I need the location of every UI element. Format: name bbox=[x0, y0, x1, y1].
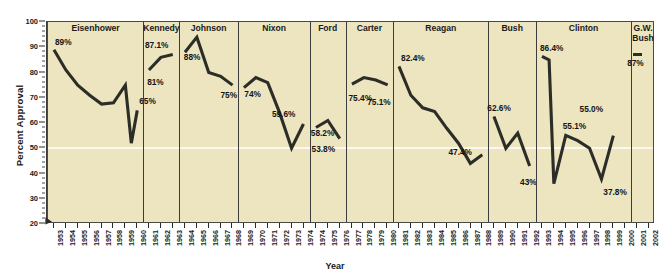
panel-g-w-bush: G.W.Bush87% bbox=[631, 22, 655, 222]
x-tick-label: 1974 bbox=[318, 230, 327, 246]
x-axis-title: Year bbox=[0, 261, 670, 271]
data-label: 43% bbox=[520, 178, 537, 187]
x-tick-label: 1979 bbox=[377, 230, 386, 246]
y-minor-tick bbox=[42, 101, 46, 102]
panel-clinton: Clinton86.4%55.1%55.0%37.8% bbox=[536, 22, 631, 222]
x-tick-mark bbox=[53, 223, 54, 228]
x-tick-label: 2000 bbox=[627, 230, 636, 246]
x-tick-mark bbox=[231, 223, 232, 228]
y-minor-tick bbox=[42, 66, 46, 67]
y-minor-tick bbox=[42, 177, 46, 178]
series-line bbox=[393, 22, 488, 224]
y-tick-mark bbox=[39, 172, 45, 173]
panel-title: G.W.Bush bbox=[631, 24, 655, 43]
y-minor-tick bbox=[42, 106, 46, 107]
x-tick-mark bbox=[517, 223, 518, 228]
x-tick-label: 1988 bbox=[484, 230, 493, 246]
x-tick-label: 2002 bbox=[651, 230, 660, 246]
series-line bbox=[488, 22, 536, 224]
panel-eisenhower: Eisenhower89%65% bbox=[48, 22, 143, 222]
presidential-approval-chart: Percent Approval 2030405060708090100 Eis… bbox=[0, 0, 670, 277]
y-minor-tick bbox=[42, 36, 46, 37]
x-tick-label: 1962 bbox=[163, 230, 172, 246]
panel-reagan: Reagan82.4%47.4% bbox=[393, 22, 488, 222]
y-minor-tick bbox=[42, 167, 46, 168]
x-tick-mark bbox=[327, 223, 328, 228]
x-tick-mark bbox=[434, 223, 435, 228]
y-minor-tick bbox=[42, 116, 46, 117]
x-tick-label: 1960 bbox=[139, 230, 148, 246]
x-tick-mark bbox=[553, 223, 554, 228]
y-axis-ticks: 2030405060708090100 bbox=[0, 0, 47, 277]
data-label: 62.6% bbox=[487, 104, 511, 113]
x-tick-mark bbox=[529, 223, 530, 228]
y-tick-label: 80 bbox=[16, 67, 38, 76]
x-tick-label: 1981 bbox=[401, 230, 410, 246]
x-tick-label: 1973 bbox=[294, 230, 303, 246]
y-minor-tick bbox=[42, 182, 46, 183]
y-tick-label: 30 bbox=[16, 193, 38, 202]
x-tick-mark bbox=[374, 223, 375, 228]
data-label: 58.2% bbox=[311, 129, 335, 138]
x-tick-mark bbox=[648, 223, 649, 228]
x-tick-mark bbox=[612, 223, 613, 228]
series-marker bbox=[633, 53, 642, 56]
y-minor-tick bbox=[42, 41, 46, 42]
x-tick-mark bbox=[481, 223, 482, 228]
x-tick-label: 1977 bbox=[354, 230, 363, 246]
x-tick-mark bbox=[386, 223, 387, 228]
plot-area: Eisenhower89%65%Kennedy87.1%81%Johnson88… bbox=[47, 21, 654, 223]
y-minor-tick bbox=[42, 91, 46, 92]
y-tick-mark bbox=[39, 122, 45, 123]
x-tick-mark bbox=[315, 223, 316, 228]
x-tick-mark bbox=[148, 223, 149, 228]
series-line bbox=[238, 22, 309, 224]
x-tick-label: 1966 bbox=[211, 230, 220, 246]
y-minor-tick bbox=[42, 142, 46, 143]
x-tick-mark bbox=[362, 223, 363, 228]
series-line bbox=[346, 22, 394, 224]
x-tick-mark bbox=[493, 223, 494, 228]
y-minor-tick bbox=[42, 31, 46, 32]
x-tick-label: 1957 bbox=[104, 230, 113, 246]
x-tick-label: 1964 bbox=[187, 230, 196, 246]
y-tick-label: 60 bbox=[16, 118, 38, 127]
data-label: 37.8% bbox=[603, 188, 627, 197]
x-tick-label: 1965 bbox=[199, 230, 208, 246]
panel-title-line: Bush bbox=[631, 34, 655, 44]
x-tick-label: 1999 bbox=[615, 230, 624, 246]
x-tick-mark bbox=[279, 223, 280, 228]
x-tick-label: 1987 bbox=[473, 230, 482, 246]
x-tick-mark bbox=[339, 223, 340, 228]
x-tick-label: 1997 bbox=[592, 230, 601, 246]
x-tick-label: 1993 bbox=[544, 230, 553, 246]
y-minor-tick bbox=[42, 192, 46, 193]
x-tick-label: 1976 bbox=[342, 230, 351, 246]
x-tick-mark bbox=[577, 223, 578, 228]
y-minor-tick bbox=[42, 127, 46, 128]
data-label: 87.1% bbox=[145, 41, 169, 50]
x-tick-label: 1968 bbox=[234, 230, 243, 246]
y-minor-tick bbox=[42, 26, 46, 27]
x-tick-mark bbox=[196, 223, 197, 228]
x-tick-label: 1967 bbox=[223, 230, 232, 246]
y-minor-tick bbox=[42, 51, 46, 52]
x-tick-mark bbox=[291, 223, 292, 228]
y-minor-tick bbox=[42, 61, 46, 62]
x-tick-mark bbox=[422, 223, 423, 228]
y-minor-tick bbox=[42, 137, 46, 138]
x-tick-mark bbox=[446, 223, 447, 228]
panel-kennedy: Kennedy87.1%81% bbox=[143, 22, 179, 222]
x-tick-label: 1972 bbox=[282, 230, 291, 246]
x-tick-mark bbox=[255, 223, 256, 228]
x-tick-label: 1971 bbox=[270, 230, 279, 246]
panel-bush: Bush62.6%43% bbox=[488, 22, 536, 222]
panel-nixon: Nixon74%59.6% bbox=[238, 22, 309, 222]
x-tick-mark bbox=[243, 223, 244, 228]
x-tick-label: 1983 bbox=[425, 230, 434, 246]
x-tick-mark bbox=[172, 223, 173, 228]
x-tick-mark bbox=[89, 223, 90, 228]
x-tick-mark bbox=[303, 223, 304, 228]
data-label: 47.4% bbox=[448, 148, 472, 157]
x-tick-mark bbox=[351, 223, 352, 228]
